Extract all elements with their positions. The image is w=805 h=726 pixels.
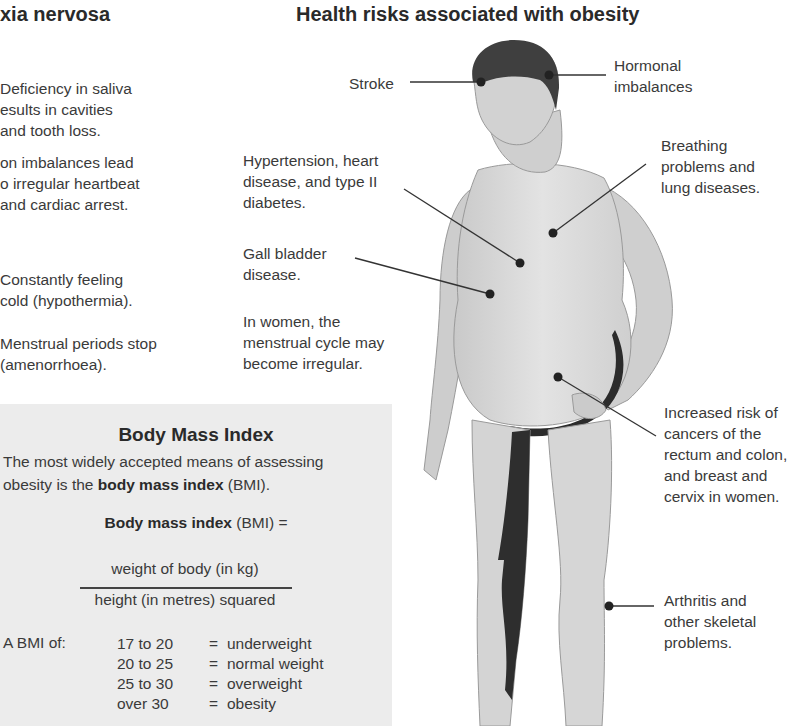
marker-hormonal <box>545 71 554 80</box>
marker-breathing <box>549 229 558 238</box>
label-hormonal: Hormonal imbalances <box>614 55 692 97</box>
marker-arthritis <box>605 602 614 611</box>
label-arthritis: Arthritis and other skeletal problems. <box>664 590 756 653</box>
marker-gall-bladder <box>486 290 495 299</box>
torso <box>454 163 631 426</box>
label-breathing: Breathing problems and lung diseases. <box>661 135 760 198</box>
marker-stroke <box>477 78 486 87</box>
label-hypertension: Hypertension, heart disease, and type II… <box>243 150 378 213</box>
marker-cancers <box>554 373 563 382</box>
label-cancers: Increased risk of cancers of the rectum … <box>664 402 787 507</box>
label-gall-bladder: Gall bladder disease. <box>243 243 327 285</box>
label-menstrual: In women, the menstrual cycle may become… <box>243 311 384 374</box>
right-leg <box>548 420 612 726</box>
marker-hypertension <box>516 259 525 268</box>
label-stroke: Stroke <box>349 73 394 94</box>
